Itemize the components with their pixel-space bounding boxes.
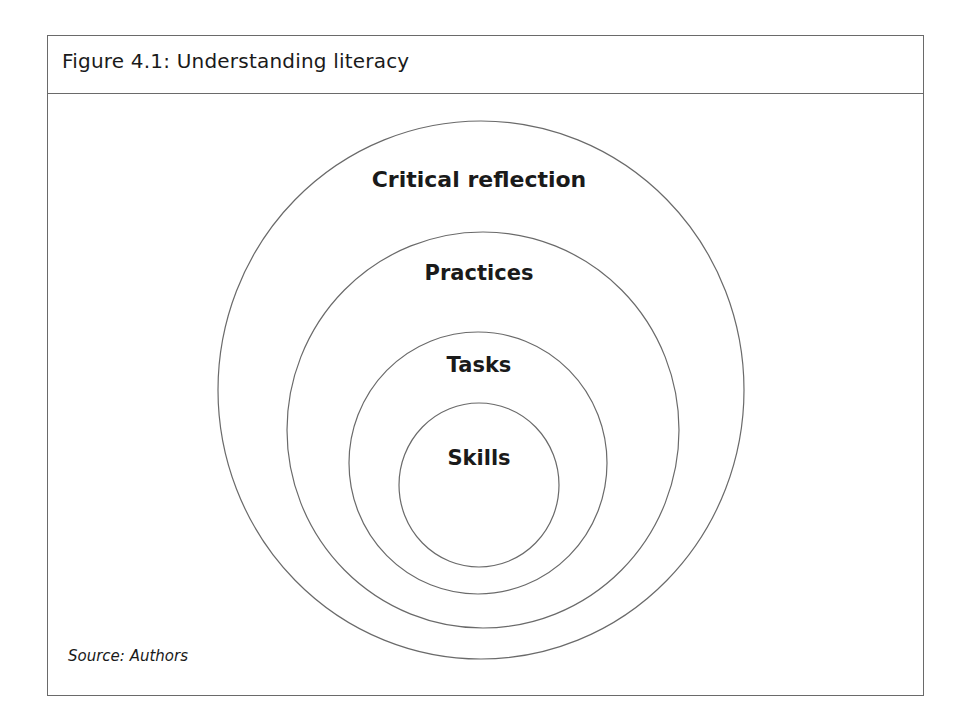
figure-box: Figure 4.1: Understanding literacy Sourc… (47, 35, 924, 696)
figure-header: Figure 4.1: Understanding literacy (48, 36, 923, 94)
source-note: Source: Authors (68, 647, 188, 665)
figure-title: Figure 4.1: Understanding literacy (62, 49, 409, 73)
